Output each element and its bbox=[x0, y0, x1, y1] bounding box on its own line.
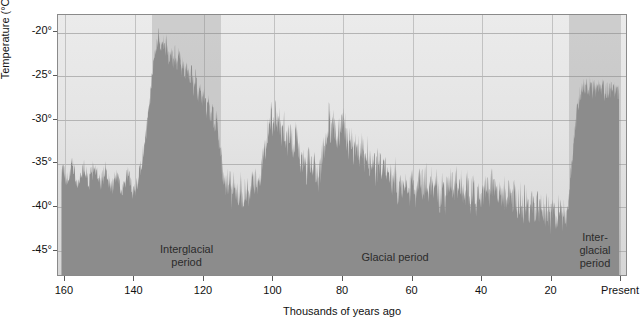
y-tick-label-0: -20° bbox=[14, 24, 52, 36]
x-tick-mark-3 bbox=[272, 276, 273, 281]
period-label-0: Interglacial period bbox=[152, 243, 222, 269]
y-axis-label: Temperature (°C) bbox=[0, 0, 11, 92]
plot-area: Interglacial periodGlacial periodInter- … bbox=[57, 14, 627, 276]
x-tick-mark-1 bbox=[133, 276, 134, 281]
x-tick-mark-0 bbox=[64, 276, 65, 281]
x-tick-label-0: 160 bbox=[29, 284, 99, 296]
x-tick-mark-8 bbox=[620, 276, 621, 281]
x-tick-label-2: 120 bbox=[168, 284, 238, 296]
x-tick-label-1: 140 bbox=[98, 284, 168, 296]
y-tick-label-2: -30° bbox=[14, 112, 52, 124]
temperature-series bbox=[58, 15, 626, 275]
x-tick-mark-4 bbox=[342, 276, 343, 281]
x-tick-mark-2 bbox=[203, 276, 204, 281]
x-tick-label-5: 60 bbox=[377, 284, 447, 296]
y-tick-label-4: -40° bbox=[14, 199, 52, 211]
x-tick-mark-6 bbox=[481, 276, 482, 281]
x-axis-label: Thousands of years ago bbox=[57, 305, 627, 317]
y-tick-label-5: -45° bbox=[14, 243, 52, 255]
x-tick-label-7: 20 bbox=[516, 284, 586, 296]
y-tick-label-1: -25° bbox=[14, 68, 52, 80]
x-tick-label-4: 80 bbox=[307, 284, 377, 296]
x-tick-label-3: 100 bbox=[237, 284, 307, 296]
period-label-2: Inter- glacial period bbox=[569, 231, 621, 270]
period-label-1: Glacial period bbox=[221, 251, 569, 264]
x-tick-mark-7 bbox=[551, 276, 552, 281]
y-tick-label-3: -35° bbox=[14, 155, 52, 167]
x-tick-label-8: Present bbox=[585, 284, 644, 296]
x-tick-mark-5 bbox=[412, 276, 413, 281]
x-tick-label-6: 40 bbox=[446, 284, 516, 296]
